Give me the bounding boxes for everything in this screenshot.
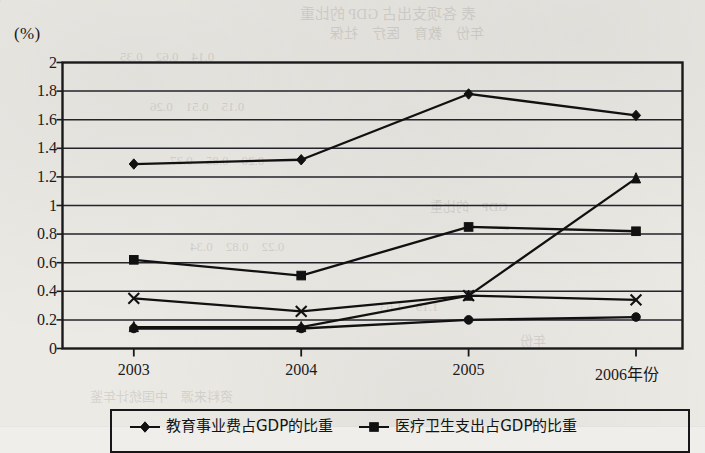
x-tick-label: 2003 bbox=[118, 361, 150, 379]
series-diamond bbox=[129, 89, 640, 169]
legend-item[interactable]: 医疗卫生支出占GDP的比重 bbox=[359, 414, 577, 435]
square-marker-icon bbox=[359, 419, 389, 431]
series-square bbox=[130, 223, 641, 280]
x-tick-label: 2004 bbox=[285, 361, 317, 379]
x-axis-tick-marks bbox=[134, 349, 636, 357]
x-tick-label: 2006年份 bbox=[595, 361, 659, 385]
legend-item-label: 医疗卫生支出占GDP的比重 bbox=[395, 414, 577, 435]
series-circle bbox=[130, 313, 641, 333]
x-tick-label: 2005 bbox=[453, 361, 485, 379]
series-cross bbox=[128, 290, 641, 317]
legend-row: 教育事业费占GDP的比重医疗卫生支出占GDP的比重 bbox=[112, 414, 688, 435]
legend-box: 教育事业费占GDP的比重医疗卫生支出占GDP的比重 bbox=[110, 409, 690, 453]
legend-item-label: 教育事业费占GDP的比重 bbox=[166, 414, 333, 435]
legend-item[interactable]: 教育事业费占GDP的比重 bbox=[130, 414, 333, 435]
data-series-layer bbox=[128, 89, 641, 333]
diamond-marker-icon bbox=[130, 419, 160, 431]
